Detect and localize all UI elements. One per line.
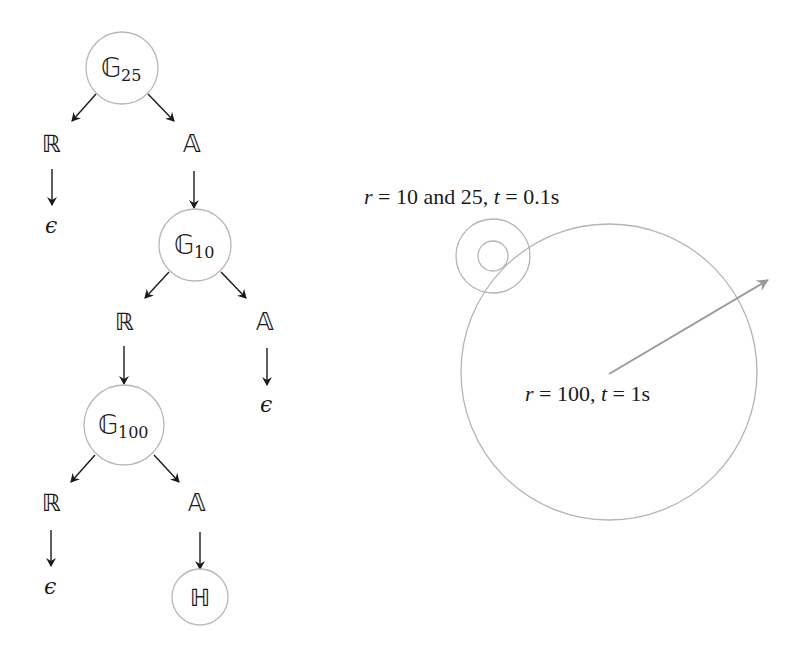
node-g100: 𝔾 100 [84, 385, 164, 465]
edge-g100-r [71, 455, 95, 482]
label-r1: ℝ [42, 130, 61, 158]
label-a1: 𝔸 [183, 130, 201, 158]
t-value: = 1s [607, 381, 650, 406]
label-a2: 𝔸 [256, 308, 274, 336]
node-g10: 𝔾 10 [159, 209, 231, 281]
circle-r100 [461, 224, 757, 520]
edge-g10-r [145, 272, 169, 298]
h-symbol: ℍ [190, 584, 210, 612]
large-circle-label: r = 100, t = 1s [525, 381, 650, 406]
g-subscript: 25 [121, 66, 141, 85]
edge-g100-a [154, 455, 179, 482]
g-symbol: 𝔾 [101, 53, 121, 83]
edge-g25-a [148, 94, 174, 121]
diagram-canvas: 𝔾 25 ℝ 𝔸 ϵ 𝔾 10 ℝ 𝔸 ϵ 𝔾 100 ℝ 𝔸 ϵ ℍ r = … [0, 0, 811, 658]
label-r2: ℝ [115, 308, 134, 336]
label-r3: ℝ [42, 489, 61, 517]
epsilon-1: ϵ [45, 213, 57, 238]
g-symbol: 𝔾 [174, 230, 194, 260]
circle-r10 [478, 241, 508, 271]
epsilon-2: ϵ [260, 392, 272, 417]
node-h: ℍ [172, 569, 228, 625]
circle-r25 [456, 219, 530, 293]
g-subscript: 10 [194, 243, 214, 262]
radius-arrow [609, 280, 768, 374]
r-value: = 100, [534, 381, 601, 406]
label-a3: 𝔸 [188, 489, 206, 517]
g-subscript: 100 [118, 423, 149, 442]
g-symbol: 𝔾 [98, 410, 118, 440]
t-value: = 0.1s [500, 184, 559, 209]
edge-g25-r [72, 94, 96, 121]
small-circles-label: r = 10 and 25, t = 0.1s [364, 184, 559, 209]
edge-g10-a [221, 272, 246, 298]
r-value: = 10 and 25, [373, 184, 494, 209]
epsilon-3: ϵ [44, 574, 56, 599]
node-g25: 𝔾 25 [86, 32, 158, 104]
